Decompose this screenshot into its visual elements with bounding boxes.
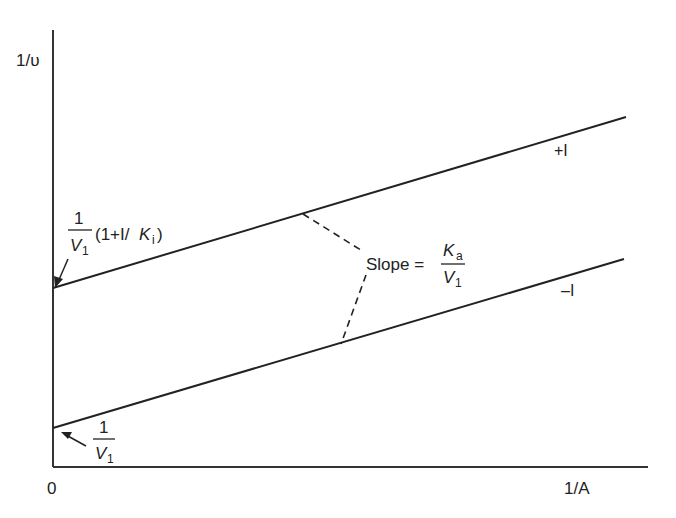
upper-ki-sub: i [152,233,155,247]
upper-paren-close: ) [157,225,163,244]
slope-text: Slope = [366,255,424,274]
lower-frac-den-sub: 1 [107,452,114,466]
line-plus-inhibitor [53,117,626,288]
slope-dash-lower [341,275,366,344]
minus-i-label: –I [561,282,574,299]
slope-dash-upper [303,214,364,252]
lower-frac-num: 1 [99,418,108,437]
plus-i-label: +I [554,142,568,159]
origin-label: 0 [47,479,56,498]
line-minus-inhibitor [53,259,624,428]
slope-num-k: K [443,241,455,260]
diagram-canvas: 1/υ 1/A 0 +I –I 1 V 1 (1+I/ K i ) 1 V 1 … [0,0,676,518]
slope-annotation: Slope = K a V 1 [366,241,465,290]
lower-intercept-label: 1 V 1 [93,418,115,466]
x-axis-label: 1/A [564,479,590,498]
upper-frac-den-sub: 1 [82,244,89,258]
y-axis-label: 1/υ [16,51,39,70]
slope-den-sub: 1 [455,276,462,290]
upper-intercept-label: 1 V 1 (1+I/ K i ) [68,209,163,258]
slope-num-sub: a [456,249,463,263]
upper-paren-text: (1+I/ [95,225,130,244]
upper-ki-k: K [139,225,151,244]
upper-frac-num: 1 [74,209,83,228]
